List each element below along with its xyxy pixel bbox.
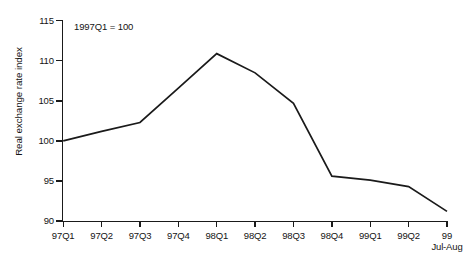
series-line-real-exchange-rate-index — [63, 54, 447, 212]
series-line-group — [0, 0, 469, 260]
real-exchange-rate-chart: Real exchange rate index 1997Q1 = 100 90… — [0, 0, 469, 260]
